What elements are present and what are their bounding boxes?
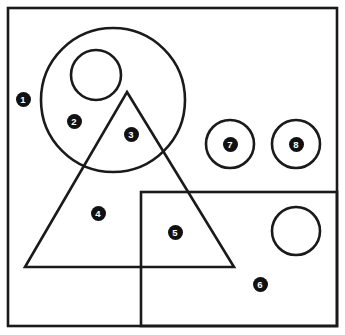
figure-container: 1 2 3 4 5 6 7 8 (0, 0, 345, 335)
region-label-4: 4 (91, 206, 106, 221)
region-label-7: 7 (223, 137, 238, 152)
region-label-8: 8 (289, 137, 304, 152)
region-label-3: 3 (124, 127, 139, 142)
region-label-2: 2 (67, 114, 82, 129)
geometry-diagram (0, 0, 345, 335)
region-label-5: 5 (168, 225, 183, 240)
region-label-1: 1 (16, 92, 31, 107)
region-label-6: 6 (253, 277, 268, 292)
